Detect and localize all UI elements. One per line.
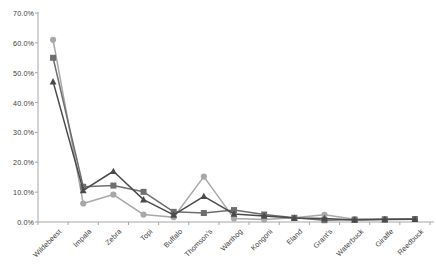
x-axis: WildebeestImpalaZebraTopiBuffaloThomson'… xyxy=(0,0,436,268)
chart-container: 0.0%10.0%20.0%30.0%40.0%50.0%60.0%70.0% … xyxy=(0,0,436,268)
